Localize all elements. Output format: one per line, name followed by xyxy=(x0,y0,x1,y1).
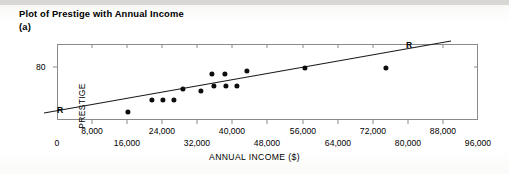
x-tick-label: 88,000 xyxy=(430,126,456,136)
regression-marker-right: R xyxy=(406,40,412,50)
x-tick-label: 40,000 xyxy=(219,126,245,136)
x-tick-label: 56,000 xyxy=(290,126,316,136)
x-tick-label: 24,000 xyxy=(149,126,175,136)
x-tick-label: 32,000 xyxy=(184,138,210,148)
top-axis-ticks xyxy=(92,44,443,48)
x-tick-label: 0 xyxy=(55,138,60,148)
x-tick-label: 64,000 xyxy=(325,138,351,148)
x-tick-label: 80,000 xyxy=(395,138,421,148)
regression-line xyxy=(44,41,451,113)
x-tick-label: 8,000 xyxy=(81,126,103,136)
bottom-axis-ticks xyxy=(92,120,443,124)
x-tick-label: 72,000 xyxy=(360,126,386,136)
x-tick-label: 16,000 xyxy=(114,138,140,148)
regression-marker-left: R xyxy=(57,105,63,115)
x-axis-label: ANNUAL INCOME ($) xyxy=(0,152,509,162)
x-tick-label: 48,000 xyxy=(254,138,280,148)
y-tick-label-80: 80 xyxy=(36,62,46,72)
x-tick-label: 96,000 xyxy=(465,138,491,148)
